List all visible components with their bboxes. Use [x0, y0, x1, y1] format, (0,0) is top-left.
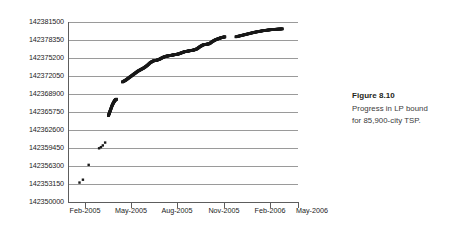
x-axis-tick — [270, 203, 271, 208]
data-point — [115, 98, 118, 101]
figure-caption-line-2: for 85,900-city TSP. — [352, 115, 448, 128]
data-point — [87, 164, 89, 166]
data-point — [78, 181, 80, 183]
figure-caption-line-1: Progress in LP bound — [352, 103, 448, 116]
plot-frame — [68, 22, 298, 202]
figure-caption: Figure 8.10 Progress in LP bound for 85,… — [352, 90, 448, 128]
plot-markers — [78, 28, 283, 184]
data-point — [102, 144, 104, 146]
x-axis-tick — [298, 203, 299, 208]
x-tick-label: May-2006 — [296, 206, 328, 215]
x-axis-tick — [224, 203, 225, 208]
data-series-plot — [68, 22, 298, 202]
data-point — [82, 179, 84, 181]
figure-caption-title: Figure 8.10 — [352, 90, 448, 103]
data-point — [104, 141, 106, 143]
data-point — [224, 36, 227, 39]
data-point — [281, 28, 284, 31]
x-axis-tick — [177, 203, 178, 208]
x-axis-line — [68, 202, 299, 203]
chart-area: 142381500 142378350 142375200 142372050 … — [0, 0, 320, 237]
figure-container: 142381500 142378350 142375200 142372050 … — [0, 0, 451, 237]
x-axis-tick — [85, 203, 86, 208]
x-axis-tick — [131, 203, 132, 208]
